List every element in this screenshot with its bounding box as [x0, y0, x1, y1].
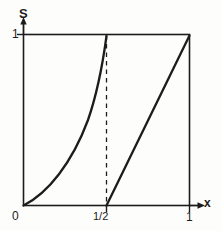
- curve-branch-two: [107, 36, 190, 206]
- x-axis-label: x: [204, 196, 211, 210]
- y-axis-label: S: [19, 6, 28, 21]
- curve-branch-one: [24, 36, 107, 206]
- plot-canvas: [0, 0, 221, 231]
- figure-container: S x 1 0 1/2 1: [0, 0, 221, 231]
- y-tick-label-one: 1: [12, 27, 19, 41]
- origin-label: 0: [12, 209, 19, 223]
- plot-frame-box: [24, 35, 190, 206]
- x-tick-label-one: 1: [186, 210, 193, 224]
- x-tick-label-half: 1/2: [93, 210, 108, 222]
